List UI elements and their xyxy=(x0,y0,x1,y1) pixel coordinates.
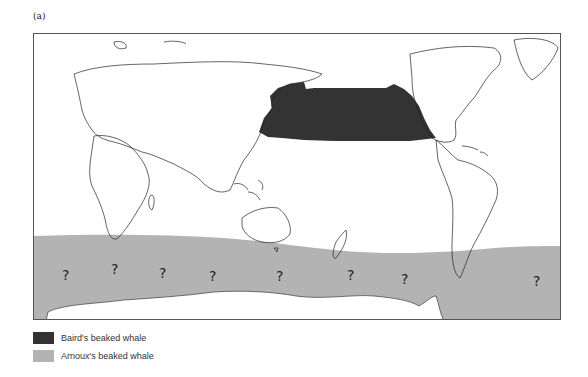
svg-text:?: ? xyxy=(533,273,540,289)
legend-item-arnoux: Arnoux's beaked whale xyxy=(33,348,154,364)
panel-label: (a) xyxy=(33,11,45,21)
baird-swatch xyxy=(33,332,54,344)
svg-text:?: ? xyxy=(159,265,166,281)
legend-label: Arnoux's beaked whale xyxy=(61,351,154,361)
arnoux-swatch xyxy=(33,350,54,362)
legend: Baird's beaked whale Arnoux's beaked wha… xyxy=(33,330,154,366)
svg-text:?: ? xyxy=(347,267,354,283)
legend-item-baird: Baird's beaked whale xyxy=(33,330,154,346)
world-map: ? ? ? ? ? ? ? ? xyxy=(33,33,561,320)
svg-text:?: ? xyxy=(111,261,118,277)
svg-text:?: ? xyxy=(62,267,69,283)
svg-text:?: ? xyxy=(401,271,408,287)
legend-label: Baird's beaked whale xyxy=(61,333,146,343)
svg-text:?: ? xyxy=(276,268,283,284)
svg-text:?: ? xyxy=(209,268,216,284)
baird-range xyxy=(259,82,436,141)
